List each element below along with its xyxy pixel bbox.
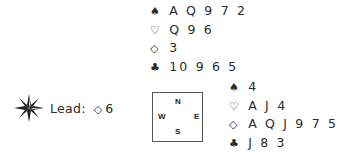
compass-north: N <box>175 97 181 106</box>
club-icon: ♣ <box>150 59 163 77</box>
east-diamonds: ◇ A Q J 9 7 5 <box>229 115 338 134</box>
diamond-icon: ◇ <box>229 116 242 134</box>
north-diamonds-cards: 3 <box>163 40 179 55</box>
compass-star-icon <box>14 94 44 122</box>
lead-label: Lead: <box>50 101 86 116</box>
north-hearts: ♡ Q 9 6 <box>150 21 247 40</box>
heart-icon: ♡ <box>229 98 242 116</box>
north-clubs-cards: 10 9 6 5 <box>163 59 238 74</box>
north-hand: ♠ A Q 9 7 2 ♡ Q 9 6 ◇ 3 ♣ 10 9 6 5 <box>150 2 247 76</box>
east-clubs: ♣ J 8 3 <box>229 134 338 153</box>
spade-icon: ♠ <box>229 79 242 97</box>
east-hearts: ♡ A J 4 <box>229 97 338 116</box>
north-clubs: ♣ 10 9 6 5 <box>150 58 247 77</box>
north-diamonds: ◇ 3 <box>150 39 247 58</box>
east-diamonds-cards: A Q J 9 7 5 <box>242 116 338 131</box>
diamond-icon: ◇ <box>94 103 103 116</box>
north-hearts-cards: Q 9 6 <box>163 22 214 37</box>
east-hand: ♠ 4 ♡ A J 4 ◇ A Q J 9 7 5 ♣ J 8 3 <box>229 78 338 152</box>
compass-west: W <box>158 112 166 121</box>
compass-south: S <box>175 127 180 136</box>
diamond-icon: ◇ <box>150 40 163 58</box>
north-spades: ♠ A Q 9 7 2 <box>150 2 247 21</box>
opening-lead: Lead: ◇6 <box>14 94 114 122</box>
lead-rank: 6 <box>105 101 114 116</box>
east-hearts-cards: A J 4 <box>242 98 287 113</box>
compass-table-box: N W E S <box>152 92 203 142</box>
east-spades: ♠ 4 <box>229 78 338 97</box>
spade-icon: ♠ <box>150 3 163 21</box>
east-clubs-cards: J 8 3 <box>242 135 287 150</box>
club-icon: ♣ <box>229 135 242 153</box>
lead-card: ◇6 <box>94 101 114 116</box>
compass-east: E <box>194 112 199 121</box>
north-spades-cards: A Q 9 7 2 <box>163 3 247 18</box>
east-spades-cards: 4 <box>242 79 258 94</box>
heart-icon: ♡ <box>150 22 163 40</box>
